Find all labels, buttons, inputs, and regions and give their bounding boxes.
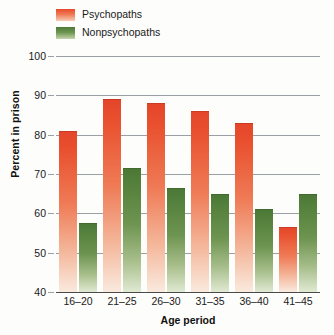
legend-item-psychopaths: Psychopaths [56, 7, 160, 22]
bar-nonpsychopaths [167, 188, 185, 292]
bar-psychopaths [191, 111, 209, 292]
x-axis-label: Age period [56, 314, 320, 326]
legend-label-psychopaths: Psychopaths [82, 9, 142, 20]
bar-nonpsychopaths [299, 194, 317, 292]
bar-group [232, 56, 276, 292]
x-tick-label: 41–45 [276, 296, 320, 307]
legend-label-nonpsychopaths: Nonpsychopaths [82, 27, 160, 38]
bar-cap [211, 194, 229, 195]
bar-psychopaths [279, 227, 297, 292]
bar-nonpsychopaths [211, 194, 229, 292]
bar-cap [59, 131, 77, 132]
y-tick-mark [48, 292, 54, 293]
bar-psychopaths [103, 99, 121, 292]
y-tick-label: 40 [2, 287, 46, 298]
bar-group [276, 56, 320, 292]
bar-group [144, 56, 188, 292]
bar-cap [191, 111, 209, 112]
x-tick-label: 36–40 [232, 296, 276, 307]
bar-cap [235, 123, 253, 124]
y-tick-label: 70 [2, 169, 46, 180]
bar-cap [147, 103, 165, 104]
y-tick-label: 100 [2, 51, 46, 62]
bar-psychopaths [59, 131, 77, 292]
y-tick-mark [48, 213, 54, 214]
y-tick-label: 50 [2, 247, 46, 258]
bar-cap [79, 223, 97, 224]
x-tick-label: 31–35 [188, 296, 232, 307]
bar-nonpsychopaths [255, 209, 273, 292]
x-tick-label: 26–30 [144, 296, 188, 307]
y-tick-label: 60 [2, 208, 46, 219]
bar-group [100, 56, 144, 292]
x-tick-label: 21–25 [100, 296, 144, 307]
bar-cap [255, 209, 273, 210]
bar-nonpsychopaths [123, 168, 141, 292]
legend-item-nonpsychopaths: Nonpsychopaths [56, 25, 160, 40]
bar-group [188, 56, 232, 292]
chart-legend: Psychopaths Nonpsychopaths [56, 7, 160, 40]
y-tick-mark [48, 95, 54, 96]
y-tick-mark [48, 135, 54, 136]
y-axis-ticks: 100908070605040 [0, 56, 46, 292]
bar-cap [299, 194, 317, 195]
bar-psychopaths [235, 123, 253, 292]
bar-nonpsychopaths [79, 223, 97, 292]
y-tick-label: 90 [2, 90, 46, 101]
plot-bars [56, 56, 320, 292]
bar-group [56, 56, 100, 292]
y-tick-label: 80 [2, 129, 46, 140]
legend-swatch-psychopaths [56, 9, 75, 21]
y-tick-mark [48, 56, 54, 57]
bar-cap [103, 99, 121, 100]
bar-cap [123, 168, 141, 169]
x-axis-line [56, 292, 320, 293]
x-tick-label: 16–20 [56, 296, 100, 307]
x-axis-ticks: 16–2021–2526–3031–3536–4041–45 [56, 296, 320, 310]
bar-psychopaths [147, 103, 165, 292]
bar-cap [167, 188, 185, 189]
legend-swatch-nonpsychopaths [56, 27, 75, 39]
y-tick-mark [48, 253, 54, 254]
bar-cap [279, 227, 297, 228]
y-tick-mark [48, 174, 54, 175]
